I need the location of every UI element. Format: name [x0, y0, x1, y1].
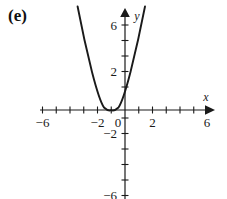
x-tick-label-minus6: −6 — [36, 115, 50, 130]
y-tick-label-minus6: −6 — [103, 188, 117, 199]
x-tick-label-2: 2 — [149, 115, 156, 130]
parabola-plot: −6 −2 0 2 6 6 2 −2 −6 x y — [0, 0, 227, 199]
x-axis-label: x — [202, 90, 209, 104]
y-tick-label-2: 2 — [111, 64, 118, 79]
x-axis-arrow-icon — [205, 105, 215, 115]
x-tick-label-6: 6 — [204, 115, 211, 130]
y-tick-label-minus2: −2 — [103, 126, 117, 141]
y-axis-label: y — [133, 9, 140, 23]
y-tick-label-6: 6 — [111, 18, 118, 33]
y-axis-arrow-icon — [120, 8, 130, 17]
figure-panel: (e) — [0, 0, 227, 199]
